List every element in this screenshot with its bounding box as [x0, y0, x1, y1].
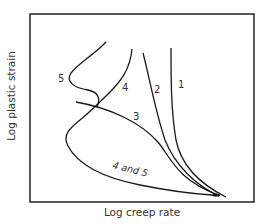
curve-label-1: 1	[178, 79, 184, 90]
creep-diagram: 1 2 3 4 5 4 and 5 Log plastic strain Log…	[0, 0, 269, 224]
diagram-canvas: 1 2 3 4 5 4 and 5	[0, 0, 269, 224]
curve-1	[171, 48, 226, 197]
curve-label-4: 4	[122, 82, 128, 93]
curve-label-4-and-5: 4 and 5	[112, 159, 150, 178]
x-axis-label: Log creep rate	[30, 206, 254, 218]
curve-5	[69, 42, 106, 107]
curve-label-2: 2	[154, 84, 160, 95]
curve-2	[143, 53, 219, 196]
curve-3	[76, 102, 218, 195]
y-axis-label: Log plastic strain	[5, 36, 19, 156]
convergence-point	[212, 193, 220, 196]
curve-label-5: 5	[58, 73, 64, 84]
curve-label-3: 3	[133, 111, 139, 122]
